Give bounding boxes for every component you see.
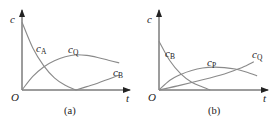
series-label-c-b: cB: [113, 66, 123, 80]
series-label-c-a: cA: [36, 42, 47, 56]
y-axis-label-a: c: [10, 13, 15, 25]
x-axis-label-a: t: [126, 92, 130, 104]
x-axis-label-b: t: [263, 92, 267, 104]
panel-b: c t O (b) cBcPcQ: [147, 10, 268, 117]
series-label-c-q: cQ: [68, 43, 79, 57]
panel-caption-b: (b): [208, 105, 221, 117]
series-label-c-p: cP: [207, 56, 216, 70]
series-label-c-q: cQ: [252, 48, 263, 62]
y-axis-label-b: c: [147, 13, 152, 25]
origin-label-a: O: [11, 91, 19, 103]
series-line-c-q: [22, 55, 119, 90]
series-label-c-b: cB: [165, 47, 175, 61]
origin-label-b: O: [148, 91, 156, 103]
panel-a: c t O (a) cAcQcB: [10, 10, 130, 117]
panel-caption-a: (a): [64, 105, 76, 117]
kinetics-figure: c t O (a) cAcQcB c t O (b) cBcPcQ: [0, 0, 274, 123]
